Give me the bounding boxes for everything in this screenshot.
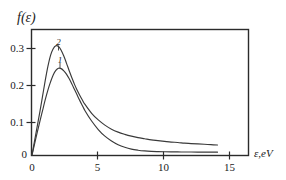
y-tick-label-0.1: 0.1 bbox=[10, 116, 24, 128]
distribution-chart: 0.3 0.2 0.1 0 0 5 10 15 f(ε) ε,eV 2 1 bbox=[0, 0, 286, 180]
figure-container: 0.3 0.2 0.1 0 0 5 10 15 f(ε) ε,eV 2 1 bbox=[0, 0, 286, 180]
x-axis-label: ε,eV bbox=[254, 147, 274, 159]
y-tick-label-0: 0 bbox=[22, 148, 28, 160]
plot-frame bbox=[32, 30, 249, 156]
x-tick-label-15: 15 bbox=[224, 161, 236, 173]
x-tick-label-0: 0 bbox=[29, 161, 35, 173]
x-tick-label-10: 10 bbox=[158, 161, 170, 173]
curve-1-path bbox=[32, 68, 218, 155]
frame-rect bbox=[32, 30, 249, 156]
curve-1-label: 1 bbox=[58, 55, 63, 65]
y-tick-label-0.3: 0.3 bbox=[10, 42, 24, 54]
curve-2-label: 2 bbox=[56, 37, 61, 47]
y-axis-label: f(ε) bbox=[17, 10, 36, 26]
y-tick-label-0.2: 0.2 bbox=[10, 79, 24, 91]
x-tick-label-5: 5 bbox=[95, 161, 101, 173]
curve-annotations: 2 1 bbox=[56, 37, 62, 68]
